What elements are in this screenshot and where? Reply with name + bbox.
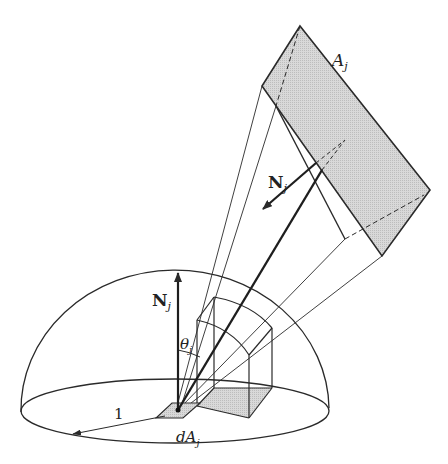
area-label: Aj <box>330 50 348 73</box>
normal-far-label: Nj <box>268 172 288 195</box>
diff-area-point <box>176 408 181 413</box>
hemisphere-diagram: Aj Nj Nj θj 1 dAj <box>0 0 448 464</box>
normal-near-label: Nj <box>152 290 172 313</box>
diff-area-label: dAj <box>176 428 200 448</box>
radius-label: 1 <box>114 405 124 423</box>
center-ray <box>178 170 322 410</box>
angle-label: θj <box>180 335 192 355</box>
